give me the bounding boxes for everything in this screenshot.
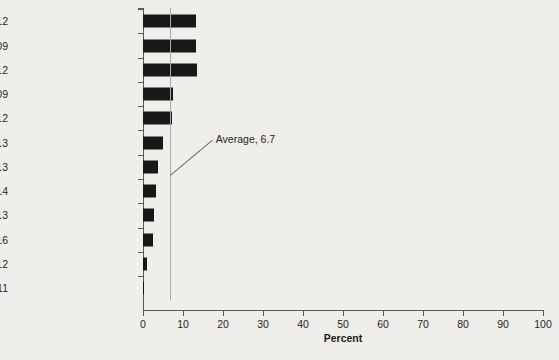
y-axis-tick [138,8,143,9]
y-axis-tick [138,203,143,204]
y-axis-tick [138,130,143,131]
y-axis-label: Russian Federation 2016 [0,234,8,246]
x-axis-tick [263,311,264,316]
x-axis-tick-label: 60 [377,318,389,330]
y-axis-tick [138,252,143,253]
y-axis-label: Albania 2012 [0,258,8,270]
x-axis-tick [503,311,504,316]
bar [143,185,156,198]
x-axis-tick-label: 20 [217,318,229,330]
y-axis-label: Honduras 2013 [0,161,8,173]
x-axis-tick [143,311,144,316]
x-axis-tick [183,311,184,316]
bar [143,136,163,149]
x-axis-tick-label: 90 [497,318,509,330]
bar [143,282,144,295]
x-axis-tick-label: 80 [457,318,469,330]
x-axis-tick-label: 40 [297,318,309,330]
y-axis-label: Mauritius 2012 [0,64,8,76]
x-axis-tick-label: 70 [417,318,429,330]
x-axis-tick [303,311,304,316]
y-axis-tick [138,106,143,107]
bar [143,233,153,246]
x-axis-title: Percent [324,332,363,344]
y-axis-tick [138,179,143,180]
y-axis-label: Tajikistan 2011 [0,282,8,294]
bar [143,112,172,125]
bar-chart: Average, 6.7 0102030405060708090100 Perc… [0,0,559,360]
x-axis-tick [383,311,384,316]
bar [143,88,173,101]
bar [143,257,147,270]
x-axis-tick [423,311,424,316]
y-axis-tick [138,9,143,10]
bar [143,160,158,173]
x-axis-tick-label: 30 [257,318,269,330]
plot-area: Average, 6.7 [143,8,543,310]
y-axis-tick [138,33,143,34]
x-axis-tick [463,311,464,316]
y-axis-tick [138,228,143,229]
y-axis-label: Slovak Republic 2009 [0,40,8,52]
y-axis-tick [138,58,143,59]
x-axis-tick [343,311,344,316]
y-axis-label: China 2013 [0,209,8,221]
y-axis-label: Panama 2014 [0,185,8,197]
y-axis-tick [138,82,143,83]
average-line [170,8,171,300]
y-axis-label: Ukraine 2013 [0,137,8,149]
x-axis-tick-label: 100 [534,318,552,330]
y-axis-label: Poland 2012 [0,15,8,27]
y-axis-tick [138,155,143,156]
x-axis-tick-label: 0 [140,318,146,330]
y-axis-tick [138,276,143,277]
bar [143,209,154,222]
average-label: Average, 6.7 [216,133,275,145]
x-axis-tick-label: 10 [177,318,189,330]
average-leader-line [170,140,213,176]
x-axis-tick [223,311,224,316]
y-axis-label: Romania 2012 [0,112,8,124]
x-axis-tick [543,311,544,316]
y-axis-label: Latvia 2009 [0,88,8,100]
x-axis-tick-label: 50 [337,318,349,330]
